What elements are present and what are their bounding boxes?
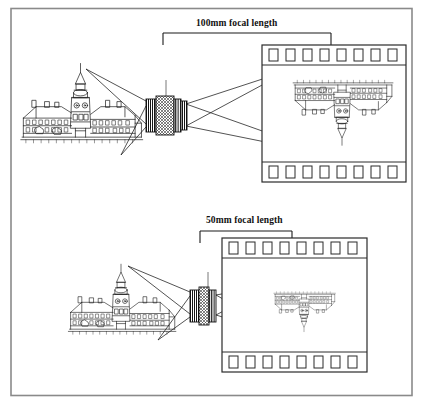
lens-barrel-100mm [146,80,187,135]
focal-length-label-50mm: 50mm focal length [206,215,283,225]
lens-barrel-50mm [190,272,216,325]
film-strip-100mm [262,45,406,182]
figure-canvas: 100mm focal length 50mm focal length [0,0,424,409]
diagram-svg [0,0,424,409]
panel-100mm [21,33,406,182]
focal-length-label-100mm: 100mm focal length [196,18,277,28]
panel-50mm [68,231,367,372]
subject-building-50mm [68,264,176,334]
subject-building-100mm [21,63,143,142]
film-strip-50mm [222,238,367,372]
dimension-line-100mm [163,33,331,45]
